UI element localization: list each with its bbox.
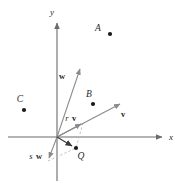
vector-diagram-figure: x y A B C Q w v r v s w xyxy=(0,0,183,186)
vector-oq-arrow[interactable] xyxy=(57,137,72,146)
point-dot-c[interactable] xyxy=(22,108,26,112)
vector-diagram-canvas: x y A B C Q w v r v s w xyxy=(0,0,183,186)
vector-label-sw: w xyxy=(36,151,43,161)
vector-label-rv: v xyxy=(72,113,77,123)
vector-label-sw-group: s w xyxy=(29,151,43,161)
point-label-a: A xyxy=(94,23,101,33)
point-dot-q[interactable] xyxy=(74,146,78,150)
vector-label-v: v xyxy=(121,109,126,119)
vector-label-rv-scalar: r xyxy=(65,113,69,123)
vector-label-rv-group: r v xyxy=(65,113,77,123)
point-label-q: Q xyxy=(78,151,85,161)
vectors-group xyxy=(49,69,120,158)
point-label-c: C xyxy=(17,94,24,104)
point-dot-a[interactable] xyxy=(108,32,112,36)
vector-label-sw-scalar: s xyxy=(29,151,33,161)
y-axis-label: y xyxy=(49,7,54,17)
x-axis-label: x xyxy=(168,132,173,142)
point-dot-b[interactable] xyxy=(91,102,95,106)
point-label-b: B xyxy=(86,89,92,99)
vector-label-w: w xyxy=(59,71,66,81)
point-dots-group xyxy=(22,32,112,150)
vector-sw-arrow[interactable] xyxy=(49,137,57,158)
